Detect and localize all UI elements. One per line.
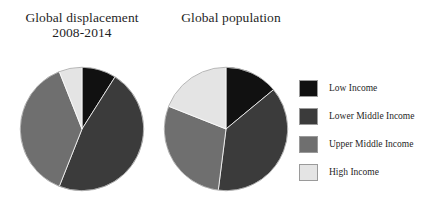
legend-item: Upper Middle Income (299, 130, 429, 158)
chart-legend: Low IncomeLower Middle IncomeUpper Middl… (299, 74, 429, 186)
pie-svg-global-displacement (19, 66, 145, 192)
legend-color-swatch (299, 136, 318, 153)
legend-color-swatch (299, 164, 318, 181)
chart-title-global-population: Global population (166, 10, 296, 25)
legend-item: Lower Middle Income (299, 102, 429, 130)
legend-item-label: Lower Middle Income (329, 111, 414, 122)
pie-svg-global-population (163, 66, 289, 192)
legend-item: High Income (299, 158, 429, 186)
legend-item-label: High Income (329, 167, 379, 178)
chart-title-global-displacement: Global displacement 2008-2014 (8, 10, 156, 40)
legend-item: Low Income (299, 74, 429, 102)
legend-item-label: Upper Middle Income (329, 139, 413, 150)
pie-chart-global-displacement (19, 66, 145, 192)
pie-chart-global-population (163, 66, 289, 192)
pie-chart-figure: Global displacement 2008-2014 Global pop… (0, 0, 433, 214)
legend-color-swatch (299, 80, 318, 97)
legend-item-label: Low Income (329, 83, 377, 94)
legend-color-swatch (299, 108, 318, 125)
